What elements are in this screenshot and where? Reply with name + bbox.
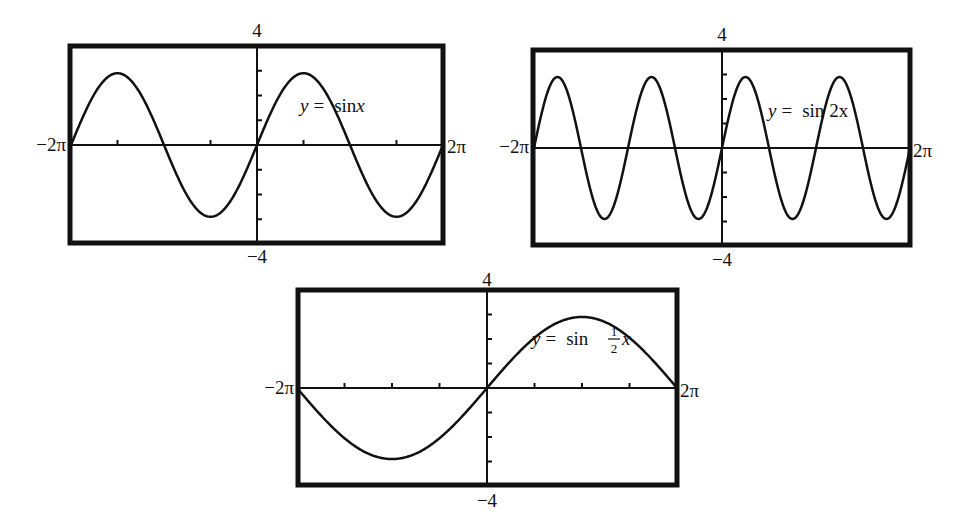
g2-equation: y=sin2x — [766, 100, 849, 121]
g3-equation: y=sin 1 2 x — [530, 324, 631, 356]
g1-xmin-label: −2π — [36, 134, 66, 155]
g1-ymax-label: 4 — [252, 20, 262, 41]
g3-ymax-label: 4 — [482, 269, 492, 290]
g1-xmax-label: 2π — [447, 136, 467, 157]
g3-xmin-label: −2π — [264, 377, 294, 398]
graph-sin-2x — [533, 50, 910, 245]
g2-ymin-label: −4 — [712, 249, 733, 270]
svg-text:2: 2 — [611, 341, 618, 356]
g3-xmax-label: 2π — [680, 380, 700, 401]
svg-text:x: x — [621, 328, 631, 349]
g3-ymin-label: −4 — [477, 490, 498, 511]
graph-sin-x — [70, 46, 443, 243]
g1-ymin-label: −4 — [247, 246, 268, 267]
g2-ymax-label: 4 — [717, 24, 727, 45]
svg-text:1: 1 — [611, 324, 618, 339]
svg-text:y=sin: y=sin — [530, 328, 589, 349]
g2-xmin-label: −2π — [499, 136, 529, 157]
graph-sin-half-x — [297, 290, 677, 485]
graphs-canvas: 4 −4 −2π 2π y=sinx 4 −4 −2π 2π y=sin2x 4… — [0, 0, 960, 516]
g2-xmax-label: 2π — [913, 140, 933, 161]
